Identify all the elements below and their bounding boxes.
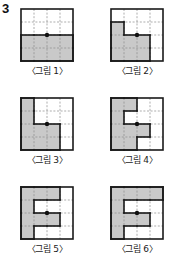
shaded-cell bbox=[111, 98, 124, 111]
worksheet-page: 3 〈그림 1〉 〈그림 2〉 〈그림 3〉 〈그림 4〉 〈그림 5〉 〈그림… bbox=[0, 0, 190, 268]
shaded-cell bbox=[34, 187, 47, 200]
shaded-cell bbox=[21, 226, 34, 239]
shaded-cell bbox=[60, 35, 73, 48]
shaded-cell bbox=[21, 35, 34, 48]
shaded-cell bbox=[47, 213, 60, 226]
shaded-cell bbox=[21, 48, 34, 61]
shaded-cell bbox=[47, 124, 60, 137]
figure-3-caption: 〈그림 3〉 bbox=[27, 153, 68, 166]
shaded-cell bbox=[111, 226, 124, 239]
shaded-cell bbox=[137, 48, 150, 61]
shaded-cell bbox=[124, 187, 137, 200]
shaded-cell bbox=[124, 213, 137, 226]
figure-2-caption: 〈그림 2〉 bbox=[117, 64, 158, 77]
figure-2-grid bbox=[110, 8, 164, 62]
figure-block-4: 〈그림 4〉 bbox=[110, 97, 164, 166]
shaded-cell bbox=[34, 35, 47, 48]
shaded-cell bbox=[124, 98, 137, 111]
shaded-cell bbox=[47, 137, 60, 150]
figure-1-grid bbox=[20, 8, 74, 62]
shaded-cell bbox=[137, 124, 150, 137]
shaded-cell bbox=[111, 124, 124, 137]
shaded-cell bbox=[124, 137, 137, 150]
shaded-cell bbox=[21, 187, 34, 200]
shaded-cell bbox=[34, 137, 47, 150]
shaded-cell bbox=[137, 213, 150, 226]
figure-4-grid bbox=[110, 97, 164, 151]
shaded-cell bbox=[21, 111, 34, 124]
figure-4-caption: 〈그림 4〉 bbox=[117, 153, 158, 166]
shaded-cell bbox=[111, 35, 124, 48]
problem-number: 3 bbox=[2, 2, 9, 15]
shaded-cell bbox=[21, 124, 34, 137]
shaded-cell bbox=[137, 187, 150, 200]
figure-3-grid bbox=[20, 97, 74, 151]
figure-5-grid bbox=[20, 186, 74, 240]
shaded-cell bbox=[34, 213, 47, 226]
figure-6-caption: 〈그림 6〉 bbox=[117, 242, 158, 255]
figure-5-caption: 〈그림 5〉 bbox=[27, 242, 68, 255]
center-point-dot bbox=[45, 211, 49, 215]
center-point-dot bbox=[135, 33, 139, 37]
figure-block-5: 〈그림 5〉 bbox=[20, 186, 74, 255]
shaded-cell bbox=[21, 200, 34, 213]
shaded-cell bbox=[111, 111, 124, 124]
shaded-cell bbox=[124, 124, 137, 137]
shaded-cell bbox=[47, 35, 60, 48]
shaded-cell bbox=[111, 200, 124, 213]
shaded-cell bbox=[111, 137, 124, 150]
figure-1-caption: 〈그림 1〉 bbox=[27, 64, 68, 77]
shaded-cell bbox=[111, 22, 124, 35]
figure-6-grid bbox=[110, 186, 164, 240]
center-point-dot bbox=[45, 122, 49, 126]
shaded-cell bbox=[137, 35, 150, 48]
shaded-cell bbox=[150, 187, 163, 200]
shaded-cell bbox=[21, 98, 34, 111]
figure-block-1: 〈그림 1〉 bbox=[20, 8, 74, 77]
center-point-dot bbox=[135, 122, 139, 126]
shaded-cell bbox=[111, 48, 124, 61]
figure-block-2: 〈그림 2〉 bbox=[110, 8, 164, 77]
figure-block-3: 〈그림 3〉 bbox=[20, 97, 74, 166]
shaded-cell bbox=[21, 137, 34, 150]
shaded-cell bbox=[21, 213, 34, 226]
shaded-cell bbox=[111, 213, 124, 226]
shaded-cell bbox=[34, 48, 47, 61]
shaded-cell bbox=[47, 48, 60, 61]
shaded-cell bbox=[124, 35, 137, 48]
shaded-cell bbox=[124, 48, 137, 61]
shaded-cell bbox=[47, 187, 60, 200]
shaded-cell bbox=[34, 124, 47, 137]
figure-block-6: 〈그림 6〉 bbox=[110, 186, 164, 255]
center-point-dot bbox=[135, 211, 139, 215]
shaded-cell bbox=[111, 187, 124, 200]
center-point-dot bbox=[45, 33, 49, 37]
shaded-cell bbox=[60, 48, 73, 61]
